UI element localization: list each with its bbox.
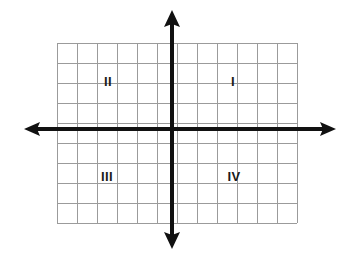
quadrant-label-iv: IV: [227, 170, 240, 183]
quadrant-label-i: I: [231, 75, 235, 88]
coordinate-plane-svg: [0, 0, 354, 258]
x-axis: [24, 122, 336, 136]
coordinate-plane-figure: I II III IV: [0, 0, 354, 258]
grid-vertical-lines: [58, 43, 298, 223]
quadrant-label-iii: III: [101, 170, 113, 183]
quadrant-label-ii: II: [104, 75, 112, 88]
